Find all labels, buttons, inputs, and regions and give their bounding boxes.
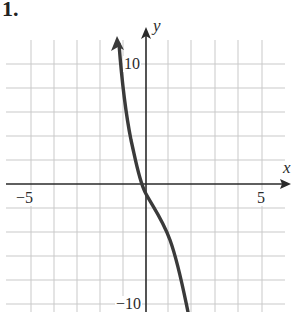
x-tick-5: 5 [256,190,266,206]
x-axis [6,179,291,189]
y-axis-label: y [153,16,161,36]
y-tick-10: 10 [123,56,141,72]
x-tick-neg5: −5 [15,190,34,206]
y-axis [141,27,151,312]
y-tick-neg10: −10 [115,296,142,312]
x-axis-label: x [283,158,291,178]
graph [0,0,291,312]
